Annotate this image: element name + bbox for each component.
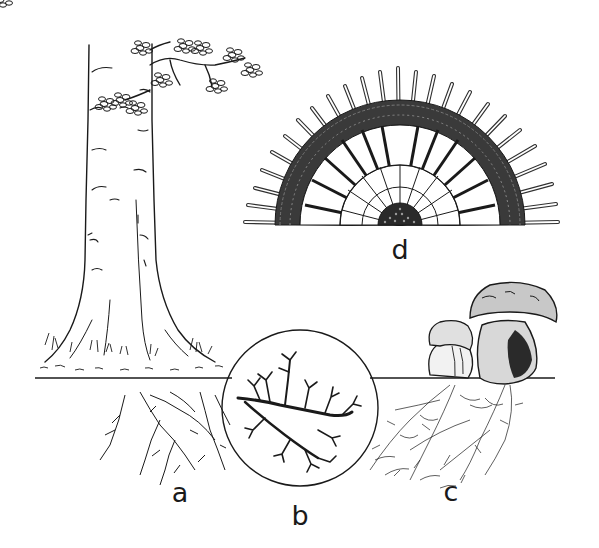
label-a: a xyxy=(172,479,189,506)
label-d: d xyxy=(391,236,408,263)
label-b: b xyxy=(291,502,308,529)
tree-roots xyxy=(100,392,230,485)
illustration-canvas xyxy=(0,0,599,548)
magnified-root-tips xyxy=(238,352,361,472)
mycelium-network xyxy=(370,385,523,488)
mushroom-large xyxy=(470,282,557,384)
grass-ground xyxy=(40,333,223,370)
mushroom-small xyxy=(429,321,473,378)
label-c: c xyxy=(444,478,459,505)
mycorrhiza-figure: a b c d xyxy=(0,0,599,548)
root-cross-section xyxy=(245,68,558,225)
